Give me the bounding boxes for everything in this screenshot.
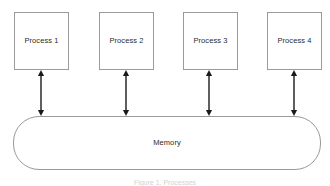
connector-process-3-memory <box>203 70 215 116</box>
process-box-4[interactable]: Process 4 <box>267 12 322 70</box>
connector-process-4-memory <box>288 70 300 116</box>
process-box-1[interactable]: Process 1 <box>14 12 69 70</box>
process-box-1-label: Process 1 <box>24 37 58 45</box>
diagram-canvas: Process 1 Process 2 Process 3 Process 4 … <box>0 0 330 186</box>
memory-block[interactable]: Memory <box>13 116 321 170</box>
connector-process-1-memory <box>35 70 47 116</box>
memory-block-label: Memory <box>153 139 181 147</box>
process-box-4-label: Process 4 <box>277 37 311 45</box>
process-box-3[interactable]: Process 3 <box>183 12 238 70</box>
process-box-3-label: Process 3 <box>193 37 227 45</box>
figure-caption: Figure 1. Processes <box>0 179 330 186</box>
process-box-2-label: Process 2 <box>109 37 143 45</box>
process-box-2[interactable]: Process 2 <box>99 12 154 70</box>
connector-process-2-memory <box>120 70 132 116</box>
